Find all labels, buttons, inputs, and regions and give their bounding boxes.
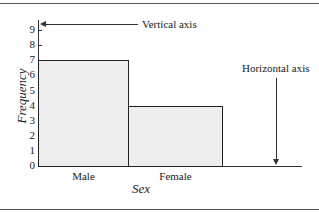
y-tick-label: 0 <box>23 160 35 171</box>
bar-male <box>38 60 129 167</box>
y-tick <box>39 45 42 46</box>
x-axis-title: Sex <box>132 181 150 197</box>
y-tick-label: 9 <box>23 24 35 35</box>
vertical-axis-annotation: Vertical axis <box>142 18 197 30</box>
horizontal-axis-arrow-icon <box>276 78 277 160</box>
y-tick-label: 8 <box>23 39 35 50</box>
y-axis-title: Frequency <box>14 66 30 126</box>
y-tick-label: 7 <box>23 54 35 65</box>
y-tick-label: 1 <box>23 145 35 156</box>
arrowhead-left-icon <box>40 21 46 27</box>
y-tick <box>39 30 42 31</box>
top-rule <box>0 3 319 4</box>
vertical-axis-arrow-icon <box>42 24 138 25</box>
bottom-rule <box>0 209 319 210</box>
x-tick-label-male: Male <box>38 170 129 182</box>
arrowhead-down-icon <box>273 159 279 165</box>
horizontal-axis-annotation: Horizontal axis <box>242 62 310 74</box>
y-tick-label: 2 <box>23 130 35 141</box>
bar-female <box>128 106 223 167</box>
